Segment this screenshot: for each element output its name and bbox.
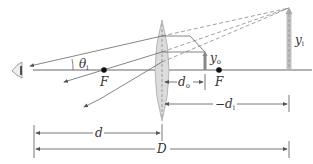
real-rays (30, 36, 205, 107)
focal-left-label: F (99, 75, 109, 89)
virtual-image-arrow (286, 7, 293, 70)
lens-to-eye-label: d (95, 126, 103, 140)
image-distance-label: −di (215, 97, 236, 112)
virtual-rays (162, 8, 289, 62)
magnifier-diagram: θi F F yo yi do −di d D (0, 0, 313, 164)
focal-right-label: F (214, 75, 224, 89)
object-distance-label: do (178, 75, 190, 90)
object-height-label: yo (209, 51, 221, 66)
theta-label: θi (79, 57, 89, 72)
focal-point-left (101, 67, 107, 73)
image-height-label: yi (294, 33, 305, 48)
focal-point-right (216, 67, 222, 73)
eye-icon (12, 62, 22, 78)
object-arrow (203, 51, 208, 70)
converging-lens (155, 20, 169, 121)
total-distance-label: D (156, 142, 167, 156)
theta-arc (72, 59, 73, 70)
